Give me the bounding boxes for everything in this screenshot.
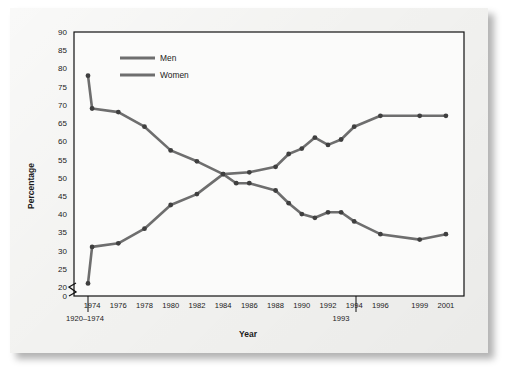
plot-frame bbox=[74, 32, 464, 296]
data-point-men bbox=[417, 237, 422, 242]
data-point-women bbox=[195, 192, 200, 197]
data-point-men bbox=[168, 148, 173, 153]
data-point-women bbox=[378, 113, 383, 118]
y-axis-label: Percentage bbox=[26, 163, 36, 209]
x-tick-label: 1986 bbox=[241, 301, 258, 310]
data-point-men bbox=[378, 232, 383, 237]
y-tick-label: 65 bbox=[58, 119, 67, 128]
y-tick-label: 75 bbox=[58, 83, 67, 92]
x-tick-label: 1990 bbox=[293, 301, 310, 310]
x-tick-label: 1988 bbox=[267, 301, 284, 310]
data-point-men bbox=[313, 215, 318, 220]
data-point-men bbox=[90, 106, 95, 111]
data-point-men bbox=[234, 181, 239, 186]
data-point-men bbox=[273, 188, 278, 193]
y-tick-label: 55 bbox=[58, 156, 67, 165]
data-point-women bbox=[339, 137, 344, 142]
data-point-women bbox=[444, 113, 449, 118]
x-tick-label-1993: 1993 bbox=[333, 314, 350, 323]
data-point-women bbox=[116, 241, 121, 246]
data-point-men bbox=[299, 212, 304, 217]
data-point-men bbox=[142, 124, 147, 129]
y-tick-label: 30 bbox=[58, 247, 67, 256]
screenshot-root: Percentage 02025303540455055606570758085… bbox=[0, 0, 507, 372]
data-point-women bbox=[273, 164, 278, 169]
data-point-women bbox=[326, 143, 331, 148]
data-point-women bbox=[417, 113, 422, 118]
y-tick-label: 45 bbox=[58, 192, 67, 201]
x-tick-label: 1982 bbox=[188, 301, 205, 310]
y-tick-label: 25 bbox=[58, 265, 67, 274]
y-tick-label: 40 bbox=[58, 210, 67, 219]
y-tick-label: 35 bbox=[58, 228, 67, 237]
data-point-men bbox=[444, 232, 449, 237]
data-point-women bbox=[90, 245, 95, 250]
data-point-men bbox=[326, 210, 331, 215]
x-tick-label: 1992 bbox=[320, 301, 337, 310]
legend-label-men: Men bbox=[160, 53, 177, 63]
y-tick-label: 80 bbox=[58, 64, 67, 73]
data-point-women bbox=[86, 281, 91, 286]
line-chart: Percentage 02025303540455055606570758085… bbox=[0, 0, 507, 372]
y-tick-label: 70 bbox=[58, 101, 67, 110]
y-tick-label: 0 bbox=[63, 292, 68, 301]
x-tick-label: 1980 bbox=[162, 301, 179, 310]
data-point-women bbox=[168, 203, 173, 208]
legend-label-women: Women bbox=[160, 70, 189, 80]
x-axis-label: Year bbox=[239, 329, 258, 339]
data-point-men bbox=[339, 210, 344, 215]
data-point-men bbox=[352, 219, 357, 224]
y-tick-label: 20 bbox=[58, 283, 67, 292]
x-tick-label: 1976 bbox=[110, 301, 127, 310]
x-tick-label-1920-1974: 1920–1974 bbox=[66, 314, 104, 323]
data-point-men bbox=[247, 181, 252, 186]
x-tick-label: 1994 bbox=[346, 301, 363, 310]
x-axis-ticks: 1974197619781980198219841986198819901992… bbox=[84, 301, 455, 310]
data-point-women bbox=[142, 226, 147, 231]
y-tick-label: 60 bbox=[58, 137, 67, 146]
x-tick-label: 1996 bbox=[372, 301, 389, 310]
y-tick-label: 50 bbox=[58, 174, 67, 183]
data-point-men bbox=[86, 73, 91, 78]
data-point-women bbox=[221, 172, 226, 177]
data-point-women bbox=[313, 135, 318, 140]
data-point-women bbox=[352, 124, 357, 129]
data-point-women bbox=[299, 146, 304, 151]
x-tick-label: 1978 bbox=[136, 301, 153, 310]
chart-svg: Percentage 02025303540455055606570758085… bbox=[0, 0, 507, 372]
data-point-women bbox=[247, 170, 252, 175]
data-point-men bbox=[195, 159, 200, 164]
y-tick-label: 85 bbox=[58, 46, 67, 55]
y-tick-label: 90 bbox=[58, 28, 67, 37]
data-point-men bbox=[116, 110, 121, 115]
y-axis-ticks: 0202530354045505560657075808590 bbox=[58, 28, 67, 301]
x-tick-label: 1974 bbox=[84, 301, 101, 310]
data-point-women bbox=[286, 152, 291, 157]
x-tick-label: 1984 bbox=[215, 301, 232, 310]
data-point-men bbox=[286, 201, 291, 206]
x-tick-label: 1999 bbox=[411, 301, 428, 310]
x-tick-label: 2001 bbox=[437, 301, 454, 310]
